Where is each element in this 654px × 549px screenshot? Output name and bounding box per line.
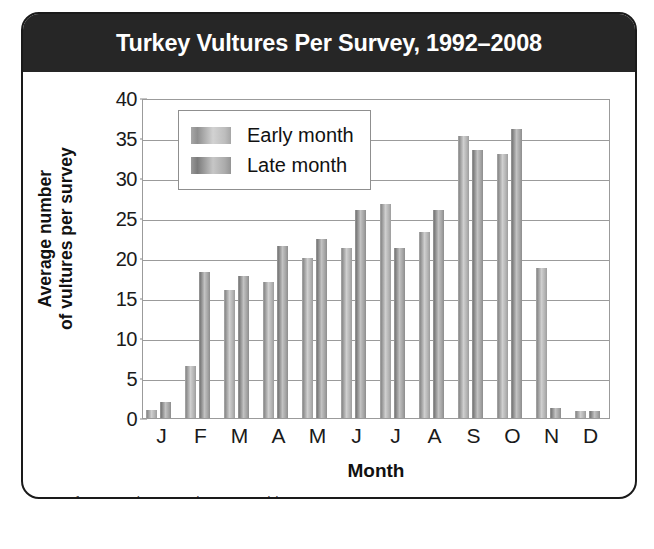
y-tick-label: 0 bbox=[126, 408, 137, 431]
x-tick-label: J bbox=[390, 424, 401, 448]
bar-late bbox=[355, 210, 366, 418]
legend-label-late: Late month bbox=[247, 154, 347, 177]
y-tick-label: 35 bbox=[116, 128, 137, 151]
chart-title: Turkey Vultures Per Survey, 1992–2008 bbox=[116, 30, 542, 57]
bar-late bbox=[394, 248, 405, 418]
bar-late bbox=[589, 411, 600, 418]
y-axis-title: Average number of vultures per survey bbox=[35, 114, 76, 364]
y-axis-ticks: 0510152025303540 bbox=[95, 99, 141, 419]
bar-group bbox=[416, 100, 455, 418]
x-tick-label: J bbox=[156, 424, 167, 448]
bar-group bbox=[494, 100, 533, 418]
legend-item-late: Late month bbox=[191, 150, 354, 180]
bar-late bbox=[277, 246, 288, 418]
chart-legend: Early month Late month bbox=[178, 110, 371, 190]
bar-early bbox=[302, 258, 313, 418]
x-tick-label: M bbox=[231, 424, 249, 448]
bar-early bbox=[497, 154, 508, 418]
x-tick-label: N bbox=[544, 424, 559, 448]
bar-group bbox=[377, 100, 416, 418]
bar-group bbox=[455, 100, 494, 418]
chart-figure: Turkey Vultures Per Survey, 1992–2008 Av… bbox=[21, 12, 637, 499]
x-tick-label: F bbox=[194, 424, 207, 448]
x-tick-label: O bbox=[504, 424, 520, 448]
bar-early bbox=[146, 410, 157, 418]
bar-early bbox=[224, 290, 235, 418]
bar-early bbox=[575, 411, 586, 418]
legend-label-early: Early month bbox=[247, 124, 354, 147]
bar-early bbox=[185, 366, 196, 418]
y-tick-label: 15 bbox=[116, 288, 137, 311]
legend-item-early: Early month bbox=[191, 120, 354, 150]
x-axis-ticks: JFMAMJJASOND bbox=[142, 424, 610, 458]
bar-early bbox=[341, 248, 352, 418]
y-tick-label: 25 bbox=[116, 208, 137, 231]
y-tick-label: 20 bbox=[116, 248, 137, 271]
y-tick-label: 10 bbox=[116, 328, 137, 351]
bar-group bbox=[533, 100, 572, 418]
legend-swatch-late-icon bbox=[191, 157, 231, 174]
bar-late bbox=[160, 402, 171, 418]
bar-early bbox=[419, 232, 430, 418]
bar-early bbox=[536, 268, 547, 418]
bar-early bbox=[458, 136, 469, 418]
x-tick-label: A bbox=[427, 424, 441, 448]
bar-late bbox=[472, 150, 483, 418]
x-tick-label: A bbox=[271, 424, 285, 448]
y-tick-label: 40 bbox=[116, 88, 137, 111]
bar-early bbox=[263, 282, 274, 418]
y-tick-label: 30 bbox=[116, 168, 137, 191]
bar-late bbox=[238, 276, 249, 418]
bar-group bbox=[572, 100, 611, 418]
x-tick-label: M bbox=[309, 424, 327, 448]
bar-late bbox=[511, 129, 522, 418]
plot-area: Early month Late month bbox=[142, 99, 610, 419]
plot-wrapper: Average number of vultures per survey 05… bbox=[23, 72, 637, 499]
bar-group bbox=[143, 100, 182, 418]
x-tick-label: D bbox=[583, 424, 598, 448]
source-note: Data from Hawk Mountain Data Archives bbox=[40, 494, 301, 499]
x-tick-label: J bbox=[351, 424, 362, 448]
x-axis-title: Month bbox=[142, 460, 610, 482]
x-tick-label: S bbox=[466, 424, 480, 448]
y-tick-label: 5 bbox=[126, 368, 137, 391]
legend-swatch-early-icon bbox=[191, 127, 231, 144]
bar-early bbox=[380, 204, 391, 418]
bar-late bbox=[433, 210, 444, 418]
chart-title-bar: Turkey Vultures Per Survey, 1992–2008 bbox=[23, 14, 635, 72]
bar-late bbox=[316, 239, 327, 418]
bar-late bbox=[550, 408, 561, 418]
bar-late bbox=[199, 272, 210, 418]
